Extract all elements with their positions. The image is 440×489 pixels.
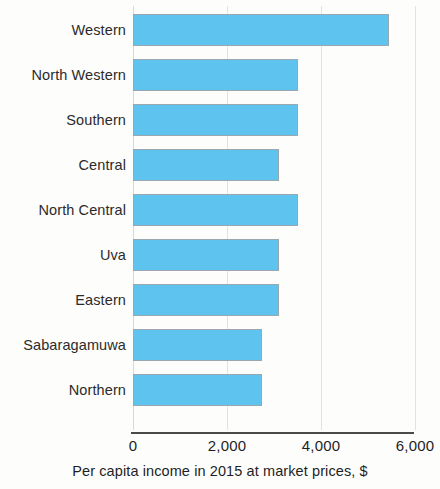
y-label-uva: Uva	[0, 239, 126, 271]
y-axis-labels: Western North Western Southern Central N…	[0, 6, 126, 430]
bar-southern[interactable]	[133, 104, 298, 136]
x-tick-4000: 4,000	[302, 437, 341, 454]
bar-row	[133, 149, 279, 181]
y-label-sabaragamuwa: Sabaragamuwa	[0, 329, 126, 361]
bar-row	[133, 104, 298, 136]
x-tick-0: 0	[129, 437, 138, 454]
plot-area	[133, 6, 415, 430]
bar-eastern[interactable]	[133, 284, 279, 316]
bar-chart: Western North Western Southern Central N…	[0, 0, 440, 489]
x-tick-2000: 2,000	[208, 437, 247, 454]
gridline-6000	[415, 6, 416, 430]
bar-row	[133, 194, 298, 226]
x-tick-6000: 6,000	[396, 437, 435, 454]
bar-north-western[interactable]	[133, 59, 298, 91]
y-label-central: Central	[0, 149, 126, 181]
bar-row	[133, 374, 262, 406]
x-axis-title: Per capita income in 2015 at market pric…	[0, 463, 440, 479]
bar-northern[interactable]	[133, 374, 262, 406]
bar-sabaragamuwa[interactable]	[133, 329, 262, 361]
x-axis-line	[131, 432, 414, 434]
bar-western[interactable]	[133, 14, 389, 46]
bar-row	[133, 239, 279, 271]
y-label-north-central: North Central	[0, 194, 126, 226]
bar-central[interactable]	[133, 149, 279, 181]
bar-row	[133, 14, 389, 46]
y-label-northern: Northern	[0, 374, 126, 406]
bar-row	[133, 329, 262, 361]
bar-uva[interactable]	[133, 239, 279, 271]
bar-north-central[interactable]	[133, 194, 298, 226]
bar-row	[133, 284, 279, 316]
y-label-southern: Southern	[0, 104, 126, 136]
y-label-eastern: Eastern	[0, 284, 126, 316]
bars-layer	[133, 6, 415, 430]
y-label-north-western: North Western	[0, 59, 126, 91]
y-label-western: Western	[0, 14, 126, 46]
bar-row	[133, 59, 298, 91]
